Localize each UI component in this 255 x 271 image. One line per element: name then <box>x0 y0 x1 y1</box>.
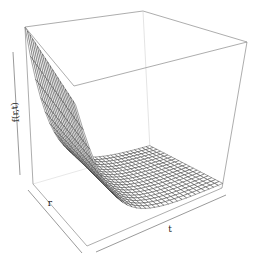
plot-box-front <box>13 27 247 253</box>
z-axis-label: f(r,t) <box>9 102 21 123</box>
t-axis-label: t <box>168 224 172 234</box>
wireframe-surface <box>25 27 223 208</box>
perspective-plot: f(r,t) r t <box>0 0 255 271</box>
r-axis-label: r <box>48 198 53 208</box>
